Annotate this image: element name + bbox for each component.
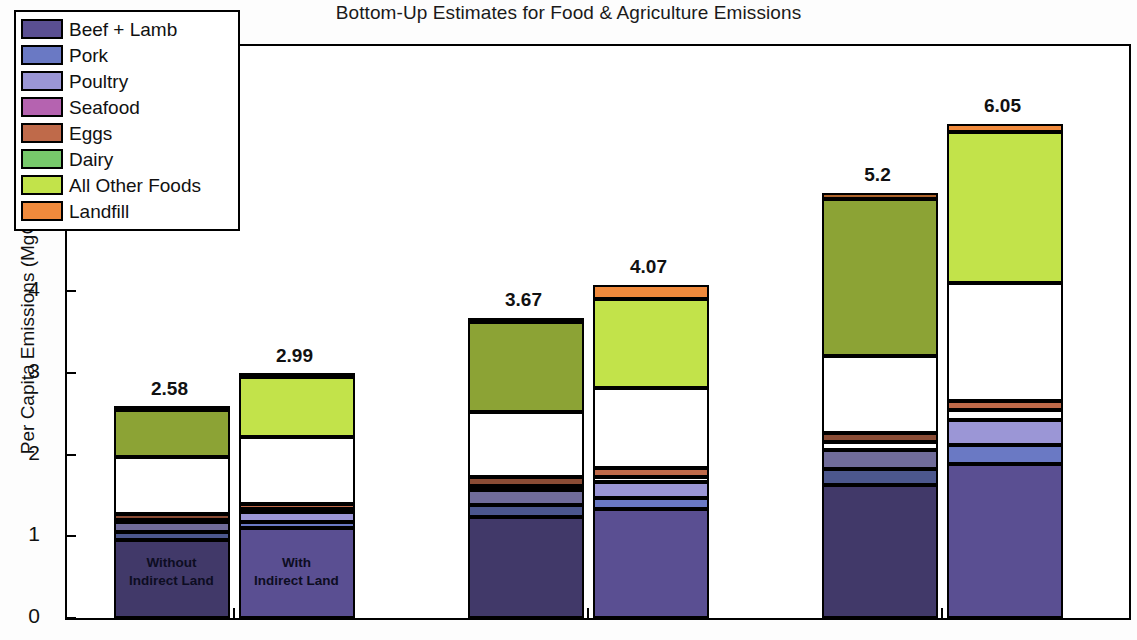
legend-swatch-icon xyxy=(21,149,63,169)
bar-segment[interactable] xyxy=(822,433,938,441)
legend-swatch-icon xyxy=(21,97,63,117)
x-axis-tick xyxy=(233,608,235,619)
stacked-bar[interactable]: WithoutIndirect Land xyxy=(114,407,230,618)
bar-segment[interactable] xyxy=(593,482,709,498)
legend-item[interactable]: Poultry xyxy=(21,68,233,94)
y-axis-tick xyxy=(65,290,76,292)
stacked-bar[interactable] xyxy=(593,285,709,618)
bar-segment[interactable] xyxy=(468,318,584,322)
x-axis-tick xyxy=(587,608,589,619)
legend-swatch-icon xyxy=(21,19,63,39)
bar-segment[interactable] xyxy=(239,377,355,437)
y-axis-tick-label: 0 xyxy=(0,605,40,626)
bar-segment[interactable] xyxy=(468,505,584,516)
y-axis-tick xyxy=(65,617,76,619)
bar-segment[interactable] xyxy=(114,406,230,410)
legend-swatch-icon xyxy=(21,71,63,91)
legend-item-label: Dairy xyxy=(69,150,113,169)
legend-item-label: Poultry xyxy=(69,72,128,91)
bar-segment[interactable] xyxy=(947,445,1063,464)
legend-swatch-icon xyxy=(21,123,63,143)
bar-segment[interactable] xyxy=(822,442,938,450)
legend-item-label: Seafood xyxy=(69,98,140,117)
y-axis-tick-label: 1 xyxy=(0,523,40,544)
bar-segment[interactable] xyxy=(468,322,584,412)
legend-item-label: Landfill xyxy=(69,202,129,221)
bar-segment[interactable] xyxy=(593,509,709,618)
bar-segment[interactable] xyxy=(114,410,230,457)
legend-item[interactable]: Dairy xyxy=(21,146,233,172)
y-axis-tick xyxy=(65,372,76,374)
legend-item[interactable]: Landfill xyxy=(21,198,233,224)
chart-canvas: Bottom-Up Estimates for Food & Agricultu… xyxy=(0,0,1137,640)
y-axis-tick xyxy=(65,535,76,537)
bar-segment[interactable] xyxy=(822,469,938,485)
bar-segment[interactable] xyxy=(239,522,355,528)
legend-item[interactable]: Pork xyxy=(21,42,233,68)
x-axis-tick xyxy=(941,608,943,619)
legend-item[interactable]: Seafood xyxy=(21,94,233,120)
bar-segment[interactable] xyxy=(593,468,709,476)
stacked-bar[interactable] xyxy=(822,193,938,618)
bar-segment[interactable] xyxy=(947,420,1063,445)
stacked-bar[interactable] xyxy=(468,318,584,618)
legend-swatch-icon xyxy=(21,201,63,221)
bar-value-label: 6.05 xyxy=(933,95,1073,117)
legend-item-label: Eggs xyxy=(69,124,112,143)
y-axis-tick-label: 3 xyxy=(0,360,40,381)
y-axis-tick-label: 2 xyxy=(0,442,40,463)
stacked-bar[interactable] xyxy=(947,124,1063,618)
bar-segment[interactable] xyxy=(114,457,230,514)
bar-segment[interactable] xyxy=(947,283,1063,401)
bar-segment[interactable] xyxy=(822,193,938,199)
bar-segment[interactable] xyxy=(947,464,1063,618)
bar-segment[interactable] xyxy=(114,522,230,532)
bar-segment[interactable] xyxy=(468,517,584,618)
bar-segment[interactable] xyxy=(239,504,355,509)
stacked-bar[interactable]: WithIndirect Land xyxy=(239,374,355,618)
bar-segment[interactable] xyxy=(593,299,709,389)
bar-segment[interactable] xyxy=(593,477,709,482)
legend-swatch-icon xyxy=(21,45,63,65)
bar-segment[interactable] xyxy=(239,373,355,377)
bar-segment[interactable] xyxy=(822,450,938,470)
chart-legend: Beef + LambPorkPoultrySeafoodEggsDairyAl… xyxy=(14,10,240,231)
legend-item[interactable]: Beef + Lamb xyxy=(21,16,233,42)
bar-segment[interactable] xyxy=(114,532,230,540)
bar-value-label: 3.67 xyxy=(454,289,594,311)
bar-segment[interactable] xyxy=(239,437,355,505)
legend-item-label: Beef + Lamb xyxy=(69,20,177,39)
bar-value-label: 2.58 xyxy=(100,378,240,400)
legend-swatch-icon xyxy=(21,175,63,195)
bar-segment[interactable] xyxy=(593,285,709,298)
bar-segment[interactable] xyxy=(593,498,709,509)
bar-value-label: 5.2 xyxy=(808,164,948,186)
bar-segment[interactable] xyxy=(239,512,355,523)
bar-segment[interactable] xyxy=(947,132,1063,283)
bar-value-label: 4.07 xyxy=(579,256,719,278)
legend-item-label: Pork xyxy=(69,46,108,65)
bar-segment[interactable] xyxy=(822,485,938,618)
legend-item[interactable]: Eggs xyxy=(21,120,233,146)
bar-value-label: 2.99 xyxy=(225,345,365,367)
bar-segment[interactable] xyxy=(239,528,355,618)
legend-item-label: All Other Foods xyxy=(69,176,201,195)
bar-segment[interactable] xyxy=(593,388,709,468)
bar-segment[interactable] xyxy=(822,199,938,356)
bar-segment[interactable] xyxy=(468,412,584,477)
bar-segment[interactable] xyxy=(822,356,938,434)
bar-segment[interactable] xyxy=(468,490,584,506)
y-axis-tick-label: 4 xyxy=(0,278,40,299)
bar-segment[interactable] xyxy=(947,124,1063,132)
y-axis-tick xyxy=(65,454,76,456)
legend-item[interactable]: All Other Foods xyxy=(21,172,233,198)
bar-segment[interactable] xyxy=(114,514,230,520)
bar-segment[interactable] xyxy=(468,477,584,485)
bar-segment[interactable] xyxy=(947,410,1063,420)
bar-segment[interactable] xyxy=(114,540,230,618)
bar-segment[interactable] xyxy=(947,401,1063,410)
bar-segment[interactable] xyxy=(468,486,584,490)
